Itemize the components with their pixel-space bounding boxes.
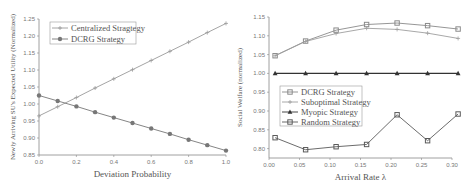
circle-marker [168,132,172,136]
y-tick-label: 1.15 [253,14,265,20]
legend-label: Suboptimal Strategy [301,97,371,107]
y-tick-label: 0.90 [253,108,265,114]
chart-canvas: 0.800.850.900.951.001.051.101.150.000.05… [234,0,468,188]
legend-label: Centralized Stragtegy [71,23,146,33]
legend: DCRG StrategySuboptimal StrategyMyopic S… [280,86,371,127]
x-tick-label: 0.2 [72,159,81,165]
square-marker [273,135,277,139]
y-tick-label: 1.15 [23,50,35,56]
circle-marker [112,115,116,119]
legend-label: DCRG Strategy [301,87,356,97]
y-tick-label: 1.10 [253,33,265,39]
series-myopic-strategy [273,71,461,75]
series-dcrg-strategy [37,93,228,152]
x-axis-label: Arrival Rate λ [335,172,387,182]
x-tick-label: 0.15 [355,162,367,168]
utility-vs-deviation-chart: 0.850.900.951.001.051.101.151.201.250.00… [0,0,234,188]
circle-marker [74,104,78,108]
circle-marker [149,126,153,130]
x-tick-label: 0.4 [110,159,119,165]
y-tick-label: 0.85 [253,127,265,133]
x-tick-label: 1.0 [222,159,231,165]
chart-canvas: 0.850.900.951.001.051.101.151.201.250.00… [0,0,234,188]
welfare-vs-arrival-chart: 0.800.850.900.951.001.051.101.150.000.05… [234,0,468,188]
y-tick-label: 1.05 [253,52,265,58]
y-tick-label: 1.25 [23,16,35,22]
y-tick-label: 1.00 [253,70,265,76]
y-tick-label: 1.10 [23,67,35,73]
circle-marker [130,121,134,125]
circle-marker [205,143,209,147]
circle-marker [93,110,97,114]
y-tick-label: 0.85 [23,152,35,158]
y-tick-label: 1.05 [23,84,35,90]
y-axis-label: Social Welfare (normalized) [236,47,244,127]
x-tick-label: 0.05 [294,162,306,168]
legend-label: Myopic Strategy [301,107,359,117]
legend-label: Random Strategy [301,117,361,127]
legend: Centralized StragtegyDCRG Strategy [50,22,146,44]
circle-marker [37,93,41,97]
x-tick-label: 0.10 [324,162,336,168]
y-tick-label: 1.00 [23,101,35,107]
circle-marker [58,37,62,41]
y-tick-label: 0.80 [253,146,265,152]
x-axis-label: Deviation Probability [94,169,172,179]
y-tick-label: 0.90 [23,135,35,141]
legend-label: DCRG Strategy [71,34,126,44]
series-suboptimal-strategy [273,26,460,57]
y-tick-label: 0.95 [23,118,35,124]
x-tick-label: 0.0 [35,159,44,165]
x-tick-label: 0.00 [263,162,275,168]
x-tick-label: 0.20 [385,162,397,168]
y-tick-label: 0.95 [253,89,265,95]
x-tick-label: 0.25 [416,162,428,168]
x-tick-label: 0.30 [446,162,458,168]
circle-marker [186,138,190,142]
y-axis-label: Newly Arriving SU's Expected Utility (No… [9,13,17,160]
circle-marker [56,99,60,103]
y-tick-label: 1.20 [23,33,35,39]
x-tick-label: 0.8 [184,159,193,165]
x-tick-label: 0.6 [147,159,156,165]
circle-marker [224,148,228,152]
